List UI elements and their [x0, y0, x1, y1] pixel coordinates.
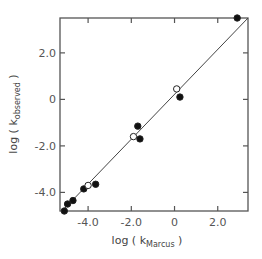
fit-line [62, 18, 248, 211]
filled-point [61, 208, 67, 214]
y-tick-label: -4.0 [35, 186, 56, 199]
scatter-chart: -4.0-2.002.0-4.0-2.002.0 log ( kMarcus )… [0, 0, 262, 259]
open-point [85, 182, 91, 188]
open-point [130, 133, 136, 139]
x-tick-label: 0 [171, 216, 178, 229]
filled-point [177, 94, 183, 100]
x-tick-label: 2.0 [209, 216, 227, 229]
data-points [61, 15, 240, 214]
axis-ticks: -4.0-2.002.0-4.0-2.002.0 [35, 18, 248, 229]
filled-point [70, 197, 76, 203]
y-axis-label: log ( kobserved ) [7, 74, 22, 153]
y-tick-label: -2.0 [35, 140, 56, 153]
filled-point [137, 136, 143, 142]
open-point [173, 86, 179, 92]
filled-point [234, 15, 240, 21]
y-tick-label: 0 [49, 93, 56, 106]
x-tick-label: -4.0 [77, 216, 98, 229]
y-tick-label: 2.0 [39, 47, 57, 60]
filled-point [92, 181, 98, 187]
fit-line-path [62, 18, 248, 211]
x-tick-label: -2.0 [121, 216, 142, 229]
filled-point [135, 123, 141, 129]
x-axis-label: log ( kMarcus ) [112, 234, 183, 249]
